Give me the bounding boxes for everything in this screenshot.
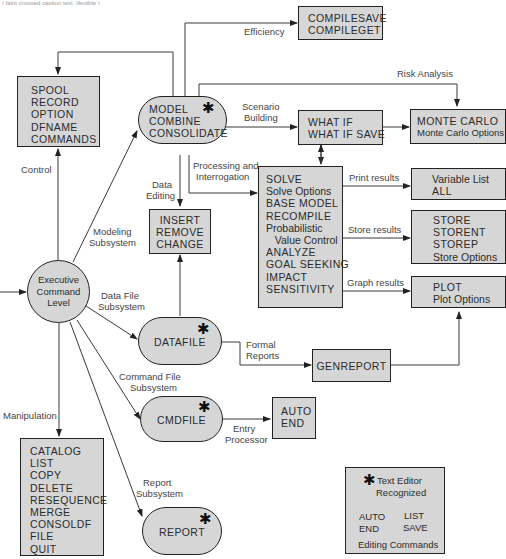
cmd-probabilistic: Probabilistic bbox=[266, 222, 349, 234]
cmd-store-options: Store Options bbox=[433, 251, 497, 263]
cmdfile-subsystem-node: CMDFILE ✱ bbox=[140, 396, 223, 442]
legend-auto: AUTO bbox=[359, 511, 385, 523]
cmd-what-if-save: WHAT IF SAVE bbox=[308, 128, 385, 140]
cmd-what-if: WHAT IF bbox=[308, 116, 385, 128]
executive-command-level-node: Executive Command Level bbox=[27, 260, 90, 323]
cmd-consolidate: CONSOLIDATE bbox=[149, 127, 228, 139]
label-modeling-2: Subsystem bbox=[89, 237, 136, 249]
cmd-store: STORE bbox=[433, 214, 497, 226]
cmd-recompile: RECOMPILE bbox=[266, 210, 349, 222]
monte-carlo-box: MONTE CARLO Monte Carlo Options bbox=[410, 109, 506, 144]
what-if-box: WHAT IF WHAT IF SAVE bbox=[298, 110, 383, 145]
label-manipulation: Manipulation bbox=[3, 410, 57, 422]
label-graph-results: Graph results bbox=[347, 277, 404, 289]
legend-caption: Editing Commands bbox=[358, 539, 438, 551]
cmd-solve: SOLVE bbox=[266, 173, 349, 185]
legend-end: END bbox=[359, 523, 379, 535]
executive-label-3: Level bbox=[37, 297, 81, 309]
cmd-value-control: Value Control bbox=[266, 234, 349, 246]
text-editor-star-icon: ✱ bbox=[199, 512, 212, 526]
label-entry-processor-1: Entry bbox=[233, 423, 255, 435]
cmd-consoldf: CONSOLDF bbox=[30, 518, 108, 530]
cmd-genreport: GENREPORT bbox=[313, 360, 390, 372]
data-editing-box: INSERT REMOVE CHANGE bbox=[149, 209, 211, 254]
executive-label-2: Command bbox=[37, 286, 81, 298]
control-commands-box: SPOOL RECORD OPTION DFNAME COMMANDS bbox=[17, 76, 100, 147]
cmd-analyze: ANALYZE bbox=[266, 246, 349, 258]
label-data-file-1: Data File bbox=[101, 290, 139, 302]
label-entry-processor-2: Processor bbox=[225, 434, 268, 446]
report-subsystem-node: REPORT ✱ bbox=[142, 507, 222, 555]
entry-processor-box: AUTO END bbox=[272, 397, 316, 439]
graph-results-box: PLOT Plot Options bbox=[411, 276, 506, 308]
cmd-catalog: CATALOG bbox=[30, 445, 108, 457]
label-print-results: Print results bbox=[349, 172, 399, 184]
legend-list: LIST bbox=[404, 510, 424, 522]
cmd-auto: AUTO bbox=[281, 405, 312, 417]
cmd-model: MODEL bbox=[149, 103, 228, 115]
text-editor-star-icon: ✱ bbox=[202, 101, 215, 115]
command-structure-diagram: ( faint cropped caption text, illegible … bbox=[0, 0, 506, 559]
cmd-spool: SPOOL bbox=[31, 84, 97, 96]
label-scenario-1: Scenario bbox=[242, 101, 280, 113]
cmd-goal-seeking: GOAL SEEKING bbox=[266, 258, 349, 270]
legend-title-1: Text Editor bbox=[377, 475, 422, 487]
legend-title-2: Recognized bbox=[376, 487, 426, 499]
cmd-all: ALL bbox=[432, 185, 489, 197]
cmd-cmdfile: CMDFILE bbox=[141, 414, 222, 426]
label-data-file-2: Subsystem bbox=[98, 301, 145, 313]
label-modeling-1: Modeling bbox=[93, 226, 132, 238]
cmd-monte-carlo-options: Monte Carlo Options bbox=[417, 127, 504, 139]
label-efficiency: Efficiency bbox=[244, 26, 284, 38]
manipulation-commands-box: CATALOG LIST COPY DELETE RESEQUENCE MERG… bbox=[20, 438, 104, 556]
processing-commands-box: SOLVE Solve Options BASE MODEL RECOMPILE… bbox=[258, 166, 343, 308]
label-data-editing-2: Editing bbox=[146, 190, 175, 202]
text-editor-star-icon: ✱ bbox=[198, 400, 211, 414]
cmd-compilesave: COMPILESAVE bbox=[308, 12, 387, 24]
label-risk-analysis: Risk Analysis bbox=[397, 68, 453, 80]
cmd-insert: INSERT bbox=[150, 214, 210, 226]
cmd-list: LIST bbox=[30, 457, 108, 469]
cmd-merge: MERGE bbox=[30, 506, 108, 518]
cmd-end: END bbox=[281, 417, 312, 429]
cmd-report: REPORT bbox=[143, 526, 221, 538]
cmd-plot: PLOT bbox=[433, 281, 490, 293]
cmd-combine: COMBINE bbox=[149, 115, 228, 127]
cmd-plot-options: Plot Options bbox=[433, 293, 490, 305]
cmd-option: OPTION bbox=[31, 108, 97, 120]
cmd-record: RECORD bbox=[31, 96, 97, 108]
label-scenario-2: Building bbox=[244, 112, 278, 124]
cmd-copy: COPY bbox=[30, 469, 108, 481]
cmd-base-model: BASE MODEL bbox=[266, 197, 349, 209]
cmd-file: FILE bbox=[30, 530, 108, 542]
label-processing-2: Interrogation bbox=[196, 171, 249, 183]
datafile-subsystem-node: DATAFILE ✱ bbox=[138, 317, 222, 365]
label-command-file-2: Subsystem bbox=[130, 382, 177, 394]
cmd-compileget: COMPILEGET bbox=[308, 24, 387, 36]
legend-save: SAVE bbox=[403, 522, 428, 534]
cmd-storep: STOREP bbox=[433, 238, 497, 250]
cmd-commands: COMMANDS bbox=[31, 133, 97, 145]
cmd-delete: DELETE bbox=[30, 482, 108, 494]
label-report-subsystem-1: Report bbox=[143, 477, 172, 489]
cmd-monte-carlo: MONTE CARLO bbox=[417, 115, 504, 127]
cmd-quit: QUIT bbox=[30, 543, 108, 555]
genreport-box: GENREPORT bbox=[312, 349, 391, 382]
cmd-variable-list: Variable List bbox=[432, 173, 489, 185]
legend-star-icon: ✱ bbox=[363, 473, 376, 487]
cmd-datafile: DATAFILE bbox=[139, 336, 221, 348]
cmd-sensitivity: SENSITIVITY bbox=[266, 283, 349, 295]
cmd-dfname: DFNAME bbox=[31, 121, 97, 133]
label-processing-1: Processing and bbox=[193, 160, 258, 172]
label-command-file-1: Command File bbox=[119, 371, 181, 383]
label-formal-reports-2: Reports bbox=[246, 350, 279, 362]
cmd-change: CHANGE bbox=[150, 238, 210, 250]
text-editor-star-icon: ✱ bbox=[197, 322, 210, 336]
label-formal-reports-1: Formal bbox=[246, 339, 276, 351]
cmd-resequence: RESEQUENCE bbox=[30, 494, 108, 506]
label-data-editing-1: Data bbox=[152, 179, 172, 191]
cmd-storent: STORENT bbox=[433, 226, 497, 238]
executive-label-1: Executive bbox=[37, 274, 81, 286]
label-control: Control bbox=[21, 164, 52, 176]
cmd-impact: IMPACT bbox=[266, 271, 349, 283]
